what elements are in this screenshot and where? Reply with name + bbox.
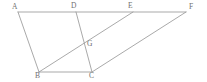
vertex-label-A: A	[12, 3, 17, 11]
vertex-label-G: G	[87, 40, 92, 48]
vertex-label-F: F	[189, 3, 193, 11]
figure-canvas	[0, 0, 207, 82]
vertex-label-D: D	[71, 2, 76, 10]
vertex-label-E: E	[128, 2, 133, 10]
geometry-figure: A D E F G B C	[0, 0, 207, 82]
segment-BE	[39, 12, 133, 72]
segment-AB	[18, 12, 39, 72]
segment-CF	[92, 12, 186, 72]
vertex-label-C: C	[89, 72, 94, 80]
vertex-label-B: B	[35, 72, 40, 80]
